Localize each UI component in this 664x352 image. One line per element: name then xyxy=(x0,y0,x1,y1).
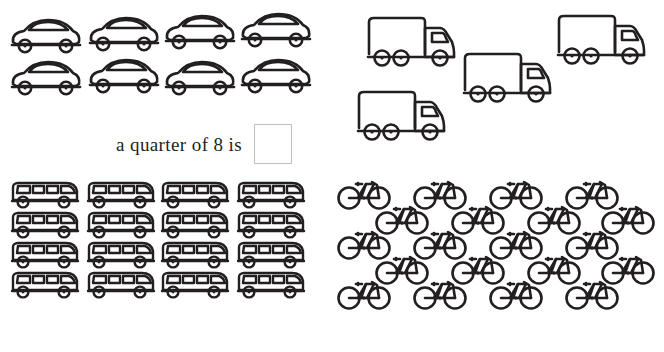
car-icon xyxy=(88,14,160,56)
van-icon xyxy=(236,210,306,244)
van-icon xyxy=(160,210,230,244)
car-icon xyxy=(10,16,82,58)
van-icon xyxy=(10,240,80,274)
truck-icon xyxy=(364,14,460,76)
trucks-icon-group xyxy=(332,0,664,176)
van-icon xyxy=(160,240,230,274)
car-icon xyxy=(88,56,160,98)
van-icon xyxy=(86,270,156,304)
van-icon xyxy=(86,240,156,274)
prompt-row-cars: a quarter of 8 is xyxy=(116,124,292,164)
truck-icon xyxy=(460,50,556,112)
bicycle-icon xyxy=(488,276,544,314)
bicycle-icon xyxy=(412,276,468,314)
answer-box-cars[interactable] xyxy=(254,124,292,164)
van-icon xyxy=(236,180,306,214)
bicycle-icon xyxy=(336,276,392,314)
van-icon xyxy=(160,180,230,214)
car-icon xyxy=(164,58,236,100)
exercise-cars: a quarter of 8 is xyxy=(0,0,332,176)
car-icon xyxy=(240,10,312,52)
van-icon xyxy=(10,210,80,244)
van-icon xyxy=(160,270,230,304)
exercise-bicycles: a quarter of 20 is xyxy=(332,176,664,352)
bicycle-icon xyxy=(564,276,620,314)
bicycles-icon-group xyxy=(332,176,664,352)
van-icon xyxy=(86,180,156,214)
car-icon xyxy=(164,12,236,54)
car-icon xyxy=(240,56,312,98)
van-icon xyxy=(10,270,80,304)
exercise-vans: a quarter of 16 is xyxy=(0,176,332,352)
truck-icon xyxy=(554,12,650,74)
vans-icon-group xyxy=(0,176,332,352)
van-icon xyxy=(10,180,80,214)
van-icon xyxy=(86,210,156,244)
worksheet-page: a quarter of 8 is xyxy=(0,0,664,352)
car-icon xyxy=(10,58,82,100)
van-icon xyxy=(236,270,306,304)
exercise-trucks: a quarter of 4 is xyxy=(332,0,664,176)
prompt-text-cars: a quarter of 8 is xyxy=(116,135,242,154)
van-icon xyxy=(236,240,306,274)
truck-icon xyxy=(354,88,450,150)
